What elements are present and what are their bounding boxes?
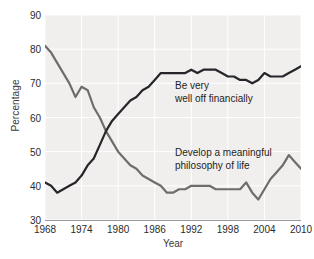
data-series-line (45, 46, 301, 200)
chart-canvas (45, 15, 301, 220)
y-tick-label: 80 (19, 44, 41, 55)
y-tick-label: 90 (19, 10, 41, 21)
x-tick-label: 1980 (98, 224, 138, 235)
series-label-be-very-well-off: Be very well off financially (175, 80, 253, 105)
data-series-line (45, 66, 301, 192)
y-axis-tick-labels: 30405060708090 (17, 0, 41, 259)
x-tick-label: 1986 (135, 224, 175, 235)
x-axis-title: Year (45, 238, 301, 249)
x-tick-label: 2004 (244, 224, 284, 235)
x-tick-label: 1992 (171, 224, 211, 235)
x-tick-label: 1968 (25, 224, 65, 235)
x-tick-label: 1974 (62, 224, 102, 235)
y-tick-label: 50 (19, 146, 41, 157)
plot-area (45, 15, 301, 220)
x-tick-label: 1998 (208, 224, 248, 235)
y-tick-label: 70 (19, 78, 41, 89)
x-axis-line (45, 220, 301, 221)
x-tick-label: 2010 (281, 224, 314, 235)
series-label-philosophy-of-life: Develop a meaningful philosophy of life (175, 147, 272, 172)
y-tick-label: 40 (19, 180, 41, 191)
chart-figure: Percentage 30405060708090 19681974198019… (0, 0, 314, 259)
y-tick-label: 60 (19, 112, 41, 123)
